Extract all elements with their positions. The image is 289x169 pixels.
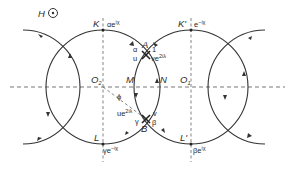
- label-L-value: γe−iχ: [103, 145, 118, 155]
- label-v-bottom: v: [153, 109, 157, 118]
- label-N: N: [160, 74, 167, 85]
- label-A: A: [141, 39, 148, 50]
- label-K-value: αeiχ: [107, 19, 120, 29]
- label-B: B: [141, 123, 148, 134]
- label-v-top: ve2iλ: [151, 53, 166, 63]
- label-O2: O2: [91, 74, 101, 86]
- label-K-prime: K': [178, 18, 187, 29]
- label-L: L: [94, 132, 99, 143]
- label-M: M: [126, 74, 134, 85]
- label-K: K: [93, 18, 100, 29]
- label-phi: ϕ: [117, 92, 121, 101]
- label-O1: O1: [180, 74, 190, 86]
- point-K-prime-dot: [190, 29, 193, 32]
- label-u-bottom: ue2iλ: [117, 108, 133, 118]
- point-K-dot: [102, 29, 105, 32]
- out-of-page-field-icon: [49, 9, 58, 18]
- label-one: 1: [152, 45, 156, 54]
- josephson-orbit-diagram: H K αeiχ K' e−iχ A α u 1 ve2iλ O2 O1 M N…: [0, 0, 289, 169]
- label-u-top: u: [133, 54, 137, 63]
- label-L-prime: L': [180, 132, 188, 143]
- label-beta: β: [152, 118, 157, 127]
- field-label: H: [38, 8, 45, 19]
- label-alpha: α: [133, 45, 138, 54]
- label-gamma: γ: [135, 117, 139, 126]
- label-K-prime-value: e−iχ: [194, 19, 206, 29]
- label-L-prime-value: βeiχ: [193, 145, 206, 155]
